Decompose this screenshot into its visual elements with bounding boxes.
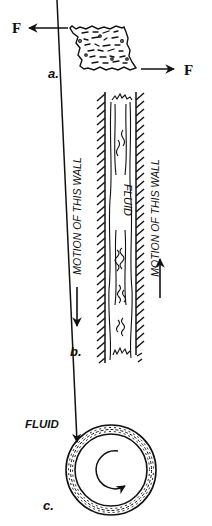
panel-b: FLUID MOTION OF THIS WALL MOTION OF THIS…: [70, 92, 161, 363]
inner-cylinder: [75, 434, 147, 506]
rotation-arrow-icon: [96, 451, 125, 489]
force-left-label: F: [12, 20, 21, 36]
left-wall-motion-label: MOTION OF THIS WALL: [71, 157, 83, 275]
right-wall-hatching: [136, 93, 144, 362]
fluid-label-b: FLUID: [122, 184, 134, 216]
left-wall-hatching: [97, 94, 105, 363]
shear-flow-diagram: F F a.: [0, 0, 212, 526]
panel-c-caption: c.: [43, 498, 54, 513]
outer-cylinder: [66, 425, 156, 515]
annulus-fluid: [69, 428, 154, 513]
panel-b-caption: b.: [70, 344, 82, 359]
panel-a-caption: a.: [48, 66, 59, 81]
fluid-label-c: FLUID: [25, 418, 59, 430]
panel-a: F F a.: [12, 20, 193, 81]
fluid-particles: [79, 31, 129, 63]
fluid-strands: [109, 94, 132, 360]
force-right-label: F: [184, 62, 193, 78]
